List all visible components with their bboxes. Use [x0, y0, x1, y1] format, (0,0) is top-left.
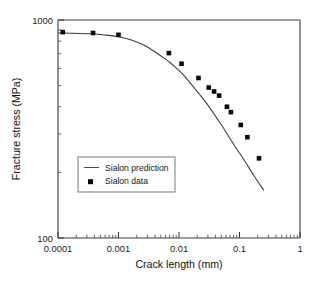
data-point-marker: [167, 51, 172, 56]
data-point-marker: [179, 61, 184, 66]
data-point-marker: [91, 31, 96, 36]
x-tick-label: 0.001: [107, 243, 130, 254]
data-point-marker: [257, 156, 262, 161]
fracture-stress-vs-crack-length-chart: 0.00010.0010.010.11 1001000 Crack length…: [0, 0, 326, 281]
x-tick-label: 1: [297, 243, 302, 254]
y-tick-label: 100: [37, 233, 53, 244]
legend-label-prediction: Sialon prediction: [105, 163, 169, 173]
x-tick-label: 0.1: [233, 243, 246, 254]
y-tick-label: 1000: [32, 15, 53, 26]
chart-figure: 0.00010.0010.010.11 1001000 Crack length…: [0, 0, 326, 281]
x-tick-label: 0.01: [170, 243, 188, 254]
data-point-marker: [116, 33, 121, 38]
data-point-marker: [212, 89, 217, 94]
data-point-marker: [206, 85, 211, 90]
data-point-marker: [229, 110, 234, 115]
data-point-marker: [238, 123, 243, 128]
data-point-marker: [60, 30, 65, 35]
chart-legend: Sialon prediction Sialon data: [78, 157, 175, 192]
data-point-marker: [196, 76, 201, 81]
y-axis-title: Fracture stress (MPa): [10, 78, 22, 180]
data-point-marker: [225, 104, 230, 109]
data-point-marker: [245, 135, 250, 140]
legend-label-data: Sialon data: [105, 176, 148, 186]
x-axis-title: Crack length (mm): [135, 258, 222, 270]
x-tick-label: 0.0001: [44, 243, 73, 254]
legend-square-marker-icon: [88, 179, 93, 184]
data-point-marker: [217, 93, 222, 98]
